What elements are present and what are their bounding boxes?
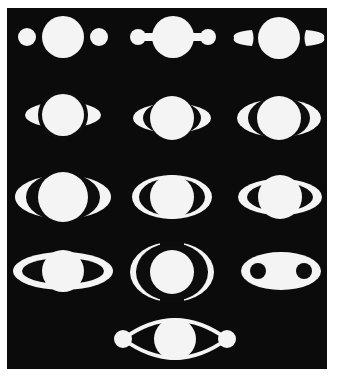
saturn-figure-8: [132, 175, 212, 219]
saturn-drawings-panel: [0, 0, 338, 378]
saturn-figure-12: [241, 252, 321, 290]
